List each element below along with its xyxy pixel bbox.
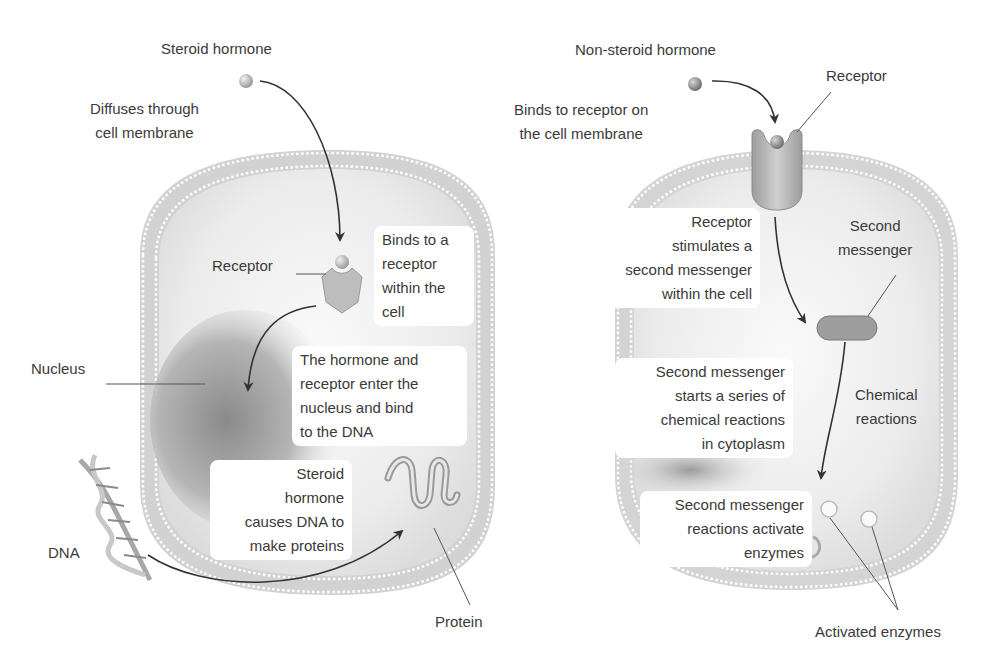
binds-membrane-step-label: Binds to receptor on the cell membrane <box>514 98 648 146</box>
membrane-receptor-icon <box>752 130 802 210</box>
activate-enzymes-step-box: Second messenger reactions activate enzy… <box>640 491 812 567</box>
make-proteins-step-box: Steroid hormone causes DNA to make prote… <box>210 460 352 560</box>
dna-label: DNA <box>48 541 80 565</box>
nonsteroid-hormone-title: Non-steroid hormone <box>575 38 716 62</box>
activated-enzyme-icon <box>821 501 837 517</box>
binds-receptor-step-box: Binds to a receptor within the cell <box>374 226 474 326</box>
protein-label: Protein <box>435 610 483 634</box>
stimulates-messenger-step-box: Receptor stimulates a second messenger w… <box>590 208 760 308</box>
chemical-reactions-label: Chemical reactions <box>855 383 918 431</box>
enter-nucleus-step-box: The hormone and receptor enter the nucle… <box>292 346 467 446</box>
nucleus-label: Nucleus <box>31 357 85 381</box>
activated-enzyme-icon <box>861 511 877 527</box>
receptor-label-right: Receptor <box>826 64 887 88</box>
receptor-label-left: Receptor <box>212 254 273 278</box>
second-messenger-label: Second messenger <box>838 214 912 262</box>
nonsteroid-hormone-molecule <box>688 77 702 91</box>
second-messenger-icon <box>817 316 877 340</box>
dna-helix-icon <box>80 455 150 580</box>
activated-enzymes-label: Activated enzymes <box>815 620 941 644</box>
steroid-hormone-molecule <box>239 74 253 88</box>
diffuses-step-label: Diffuses through cell membrane <box>90 97 199 145</box>
steroid-hormone-title: Steroid hormone <box>161 37 272 61</box>
chemical-reactions-step-box: Second messenger starts a series of chem… <box>615 358 793 458</box>
